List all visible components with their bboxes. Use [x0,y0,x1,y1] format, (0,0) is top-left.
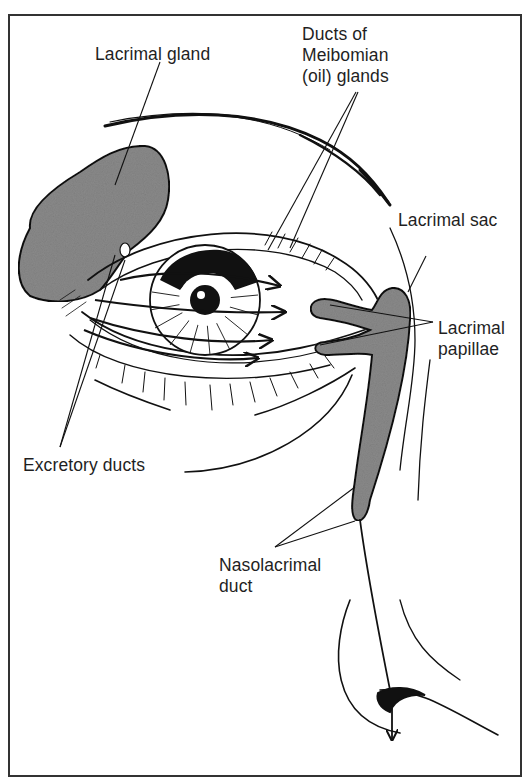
label-meibomian-ducts: Ducts of Meibomian (oil) glands [302,24,389,87]
label-lacrimal-gland: Lacrimal gland [95,44,210,65]
label-excretory-ducts: Excretory ducts [23,455,145,476]
eyeball [150,245,260,355]
label-lacrimal-sac: Lacrimal sac [398,210,497,231]
label-nasolacrimal-duct: Nasolacrimal duct [219,555,321,597]
lacrimal-sac-and-duct [311,288,411,521]
lacrimal-gland [19,146,169,302]
eye-illustration [0,0,531,783]
label-lacrimal-papillae: Lacrimal papillae [438,318,505,360]
